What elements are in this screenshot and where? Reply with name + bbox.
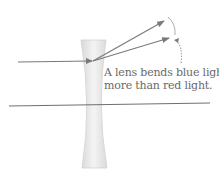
ray-tip-arc	[168, 17, 175, 35]
optical-axis-line	[9, 103, 210, 106]
concave-lens	[81, 40, 107, 168]
dotted-arc-arrowhead-icon	[174, 38, 179, 43]
dotted-arc-arrow	[177, 41, 182, 63]
lens-dispersion-diagram: A lens bends blue light more than red li…	[0, 0, 219, 178]
caption-line-2: more than red light.	[104, 79, 219, 92]
incident-ray	[18, 61, 92, 62]
caption-line-1: A lens bends blue light	[104, 66, 219, 79]
caption: A lens bends blue light more than red li…	[104, 66, 219, 92]
